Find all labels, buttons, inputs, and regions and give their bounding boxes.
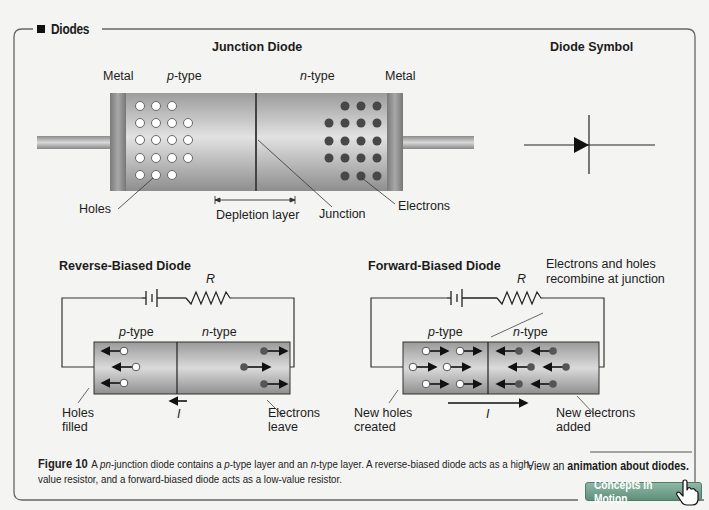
forward-new-holes-note: New holescreated	[354, 406, 412, 434]
battery-icon	[447, 289, 497, 307]
label-electrons: Electrons	[398, 199, 450, 213]
battery-icon	[142, 289, 186, 307]
animation-link-text[interactable]: animation about diodes.	[568, 459, 689, 473]
section-title: Diodes	[33, 20, 102, 38]
section-title-text: Diodes	[51, 21, 89, 37]
figure-caption: Figure 10A pn-junction diode contains a …	[38, 457, 540, 487]
diode-symbol-heading: Diode Symbol	[550, 40, 633, 54]
reverse-biased-heading: Reverse-Biased Diode	[59, 259, 191, 273]
reverse-n-type-label: n-type	[202, 325, 237, 339]
forward-biased-heading: Forward-Biased Diode	[368, 259, 501, 273]
depletion-layer-bracket	[215, 196, 295, 204]
label-n-type: n-type	[300, 69, 335, 83]
resistor-icon	[186, 292, 232, 304]
forward-n-type-label: n-type	[513, 325, 548, 339]
forward-recombine-note: Electrons and holesrecombine at junction	[546, 257, 665, 287]
forward-resistor-label: R	[517, 272, 526, 286]
reverse-p-type-label: p-type	[119, 325, 154, 339]
forward-current-label: I	[486, 407, 489, 421]
label-metal-right: Metal	[385, 69, 416, 83]
bullet-square-icon	[37, 25, 45, 33]
forward-p-type-label: p-type	[428, 325, 463, 339]
diodes-figure: Diodes Junction Diode Metal p-type n-typ…	[0, 0, 709, 510]
figure-label: Figure 10	[38, 457, 88, 471]
junction-diode-heading: Junction Diode	[212, 40, 302, 54]
label-metal-left: Metal	[103, 69, 134, 83]
junction-diode-illustration	[37, 93, 474, 209]
diode-symbol-icon	[524, 115, 655, 174]
label-junction: Junction	[319, 207, 366, 221]
reverse-current-label: I	[177, 407, 180, 421]
reverse-holes-filled-note: Holesfilled	[62, 406, 94, 434]
forward-biased-circuit	[371, 289, 604, 414]
label-holes: Holes	[79, 202, 111, 216]
forward-new-electrons-note: New electronsadded	[556, 406, 635, 434]
resistor-icon	[497, 292, 543, 304]
label-p-type: p-type	[167, 69, 202, 83]
pointer-hand-icon	[675, 479, 699, 507]
reverse-resistor-label: R	[206, 272, 215, 286]
reverse-biased-circuit	[62, 289, 294, 417]
animation-link[interactable]: View an animation about diodes.	[527, 459, 689, 473]
reverse-electrons-leave-note: Electronsleave	[268, 406, 320, 434]
label-depletion-layer: Depletion layer	[216, 208, 299, 222]
